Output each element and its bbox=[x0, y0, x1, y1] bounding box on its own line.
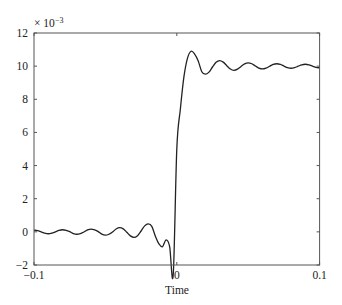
series-line bbox=[34, 51, 320, 279]
plot-area bbox=[34, 51, 320, 279]
y-tick-label: 10 bbox=[17, 60, 29, 72]
y-tick-label: 4 bbox=[22, 160, 28, 172]
y-tick-label: 8 bbox=[22, 93, 28, 105]
x-tick-label: 0 bbox=[174, 269, 180, 281]
y-tick-label: 2 bbox=[22, 193, 28, 205]
x-axis-title: Time bbox=[165, 284, 189, 296]
x-tick-label: −0.1 bbox=[24, 269, 45, 281]
x-tick-label: 0.1 bbox=[312, 269, 327, 281]
step-response-chart: −2024681012 −0.100.1 × 10−3 Time bbox=[0, 0, 342, 305]
x-axis-ticks: −0.100.1 bbox=[24, 33, 327, 281]
y-tick-label: 12 bbox=[17, 27, 29, 39]
y-tick-label: 6 bbox=[22, 126, 28, 138]
y-multiplier-label: × 10−3 bbox=[34, 16, 63, 29]
y-tick-label: 0 bbox=[22, 226, 28, 238]
